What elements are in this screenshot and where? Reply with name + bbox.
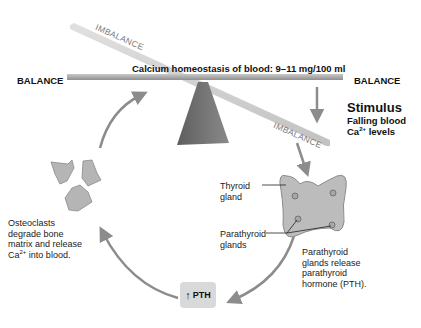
thyroid-gland — [280, 175, 346, 237]
osteoclast-text: Osteoclasts degrade bone matrix and rele… — [8, 218, 82, 260]
balance-label-left: BALANCE — [17, 75, 63, 86]
stimulus-line1: Falling blood — [347, 115, 406, 126]
up-arrow-icon: ↑ — [185, 289, 191, 301]
diagram-title: Calcium homeostasis of blood: 9–11 mg/10… — [132, 63, 345, 74]
osteoclast-cells — [51, 160, 101, 211]
parathyroid-release-text: Parathyroid glands release parathyroid h… — [302, 247, 367, 289]
pth-box: ↑ PTH — [180, 282, 216, 308]
parathyroid-glands-label: Parathyroid glands — [220, 229, 266, 250]
balance-beam — [67, 74, 343, 80]
balance-label-right: BALANCE — [354, 75, 400, 86]
pth-label: PTH — [193, 290, 211, 300]
stimulus-block: Stimulus Falling blood Ca2+ levels — [347, 100, 406, 137]
stimulus-line2: Ca2+ levels — [347, 126, 406, 137]
stimulus-heading: Stimulus — [347, 100, 406, 115]
thyroid-gland-label: Thyroid gland — [220, 181, 250, 202]
